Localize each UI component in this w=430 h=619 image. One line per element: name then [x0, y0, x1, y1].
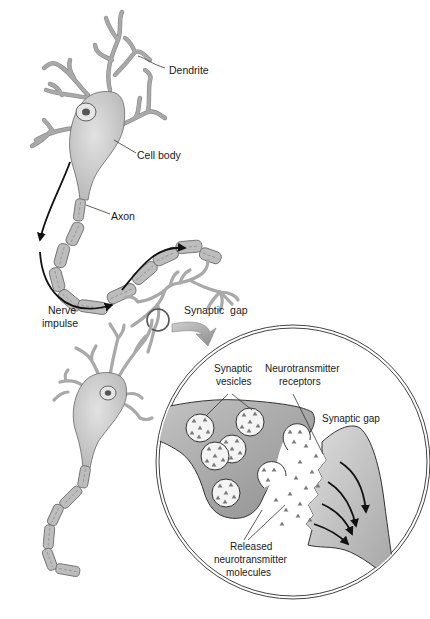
dendrite-leader [138, 56, 165, 68]
label-synaptic-vesicles-2: vesicles [216, 376, 252, 387]
label-axon: Axon [111, 210, 135, 222]
label-nerve-impulse-1: Nerve [48, 304, 76, 316]
label-nt-receptors-2: receptors [279, 376, 321, 387]
lower-axon [41, 465, 91, 577]
label-dendrite: Dendrite [169, 64, 209, 76]
zoom-arrow [172, 322, 216, 346]
upper-neuron [32, 12, 238, 352]
lower-neuron [41, 320, 152, 577]
label-cell-body: Cell body [137, 149, 182, 161]
axon-leader [86, 205, 110, 214]
lower-nucleus [100, 386, 116, 400]
label-nerve-impulse-2: impulse [42, 317, 78, 329]
label-released-1: Released [230, 541, 272, 552]
cell-body-leader [114, 140, 136, 153]
label-released-2: neurotransmitter [214, 554, 287, 565]
label-nt-receptors-1: Neurotransmitter [265, 363, 340, 374]
neuron-synapse-diagram: Dendrite Cell body Axon Nerve impulse Sy… [0, 0, 430, 619]
label-synaptic-gap-upper: Synaptic gap [184, 304, 248, 316]
label-released-3: molecules [226, 567, 271, 578]
label-synaptic-vesicles-1: Synaptic [214, 363, 252, 374]
synaptic-vesicle [212, 479, 240, 507]
synaptic-vesicle [236, 408, 264, 436]
upper-nucleus [76, 103, 96, 121]
synaptic-vesicle [201, 442, 229, 470]
label-synaptic-gap-inset: Synaptic gap [322, 413, 380, 424]
impulse-arrow-left [40, 162, 70, 240]
synaptic-vesicle [186, 414, 214, 442]
lower-cell-body [73, 373, 126, 468]
